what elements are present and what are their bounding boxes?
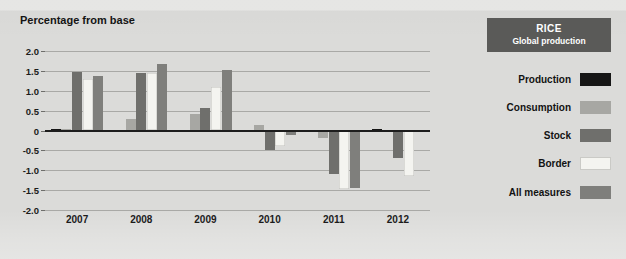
bar-all-measures-2011 (350, 131, 360, 189)
bar-border-2011 (339, 131, 349, 190)
y-axis-tick-label: 0 (34, 125, 39, 136)
plot-area: 2.01.51.00.50-0.5-1.0-1.5-2.0 2007200820… (45, 51, 430, 210)
bar-border-2008 (147, 73, 157, 131)
bar-all-measures-2009 (222, 70, 232, 130)
legend-swatch-stock (580, 129, 611, 142)
legend-item-production[interactable]: Production (518, 73, 611, 86)
bar-stock-2009 (200, 108, 210, 131)
bar-all-measures-2007 (93, 76, 103, 130)
legend-swatch-production (580, 73, 611, 86)
y-axis-tick-label: -1.0 (23, 165, 39, 176)
bar-border-2007 (83, 79, 93, 131)
legend-header: RICE Global production (487, 18, 611, 52)
legend-header-title: RICE (487, 22, 611, 35)
y-axis-tick-label: 0.5 (26, 105, 39, 116)
gridline (45, 210, 430, 211)
x-axis-label-2012: 2012 (387, 214, 409, 225)
x-axis-label-2007: 2007 (66, 214, 88, 225)
x-axis-label-2008: 2008 (130, 214, 152, 225)
y-axis-tick-label: -2.0 (23, 205, 39, 216)
legend-item-consumption[interactable]: Consumption (507, 101, 611, 114)
legend-item-label: Consumption (507, 102, 571, 113)
y-axis-tick-label: -1.5 (23, 185, 39, 196)
page-title: Percentage from base (20, 14, 135, 26)
bar-border-2009 (211, 87, 221, 131)
chart-screenshot: Percentage from base 2.01.51.00.50-0.5-1… (0, 0, 626, 259)
zero-axis-line (45, 130, 430, 132)
bar-stock-2007 (72, 72, 82, 131)
x-axis-label-2009: 2009 (194, 214, 216, 225)
x-axis-label-2011: 2011 (323, 214, 345, 225)
legend-item-stock[interactable]: Stock (544, 129, 611, 142)
legend-swatch-all-measures (580, 186, 611, 199)
bar-border-2012 (404, 131, 414, 177)
y-axis-tick-label: 1.5 (26, 65, 39, 76)
bar-consumption-2009 (190, 114, 200, 131)
bar-stock-2011 (329, 131, 339, 175)
bar-stock-2012 (393, 131, 403, 159)
legend-item-all-measures[interactable]: All measures (509, 186, 611, 199)
y-axis-tick-label: 1.0 (26, 85, 39, 96)
legend-item-label: Border (538, 158, 571, 169)
x-axis-label-2010: 2010 (258, 214, 280, 225)
legend-swatch-consumption (580, 101, 611, 114)
bar-consumption-2011 (318, 131, 328, 138)
legend-panel: RICE Global production ProductionConsump… (455, 0, 626, 259)
legend-header-subtitle: Global production (487, 35, 611, 47)
legend-item-label: Production (518, 74, 571, 85)
bar-stock-2010 (265, 131, 275, 150)
legend-swatch-border (580, 157, 611, 170)
bar-stock-2008 (136, 73, 146, 131)
bar-border-2010 (275, 131, 285, 147)
legend-item-border[interactable]: Border (538, 157, 611, 170)
legend-item-label: All measures (509, 187, 571, 198)
y-axis-tick-label: -0.5 (23, 145, 39, 156)
legend-item-label: Stock (544, 130, 571, 141)
bar-all-measures-2008 (157, 64, 167, 131)
y-axis-tickmark (41, 210, 45, 211)
y-axis-tick-label: 2.0 (26, 46, 39, 57)
